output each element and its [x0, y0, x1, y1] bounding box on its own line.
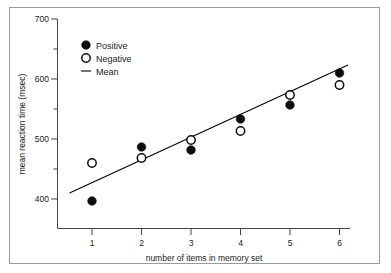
y-tick-label-500: 500 [35, 134, 49, 144]
series-positive [88, 69, 344, 206]
x-tick-label-5: 5 [288, 238, 293, 248]
data-point-negative [88, 159, 96, 167]
x-tick-label-6: 6 [337, 238, 342, 248]
data-point-negative [335, 81, 343, 89]
x-tick-label-3: 3 [189, 238, 194, 248]
scatter-plot: 700 600 500 400 1 2 3 4 5 6 number of it… [0, 0, 391, 273]
legend-label-positive: Positive [96, 41, 128, 51]
figure-container: 700 600 500 400 1 2 3 4 5 6 number of it… [0, 0, 391, 273]
legend-label-mean: Mean [96, 67, 119, 77]
data-point-positive [236, 115, 245, 124]
x-tick-label-4: 4 [238, 238, 243, 248]
data-point-positive [335, 69, 344, 78]
y-axis-minor-ticks [54, 49, 58, 169]
y-tick-label-700: 700 [35, 14, 49, 24]
x-axis-title: number of items in memory set [146, 253, 263, 263]
legend-label-negative: Negative [96, 54, 132, 64]
x-tick-label-1: 1 [90, 238, 95, 248]
y-tick-label-400: 400 [35, 194, 49, 204]
x-axis-ticks [92, 229, 340, 236]
data-point-positive [88, 197, 97, 206]
data-point-negative [137, 154, 145, 162]
mean-trend-line [70, 65, 349, 193]
series-negative [88, 81, 344, 167]
y-tick-label-600: 600 [35, 74, 49, 84]
legend-marker-negative [82, 54, 90, 62]
data-point-negative [236, 127, 244, 135]
data-point-negative [187, 136, 195, 144]
y-axis-title: mean reaction time (msec) [17, 74, 27, 175]
chart-legend: Positive Negative Mean [81, 41, 132, 77]
x-tick-label-2: 2 [139, 238, 144, 248]
data-point-negative [286, 91, 294, 99]
data-point-positive [187, 146, 196, 155]
data-point-positive [286, 101, 295, 110]
legend-marker-positive [82, 41, 91, 50]
data-point-positive [137, 143, 146, 152]
